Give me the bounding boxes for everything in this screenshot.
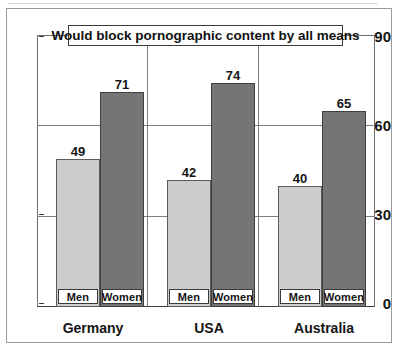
bar-value-australia-women: 65 bbox=[337, 97, 351, 110]
bar-value-germany-women: 71 bbox=[115, 78, 129, 91]
series-tag-usa-men: Men bbox=[169, 289, 209, 304]
chart-screenshot: 90 60 30 0 Germany USA Australia 49 Men … bbox=[0, 0, 398, 349]
x-category-label-usa: USA bbox=[154, 321, 264, 335]
bar-germany-women[interactable]: 71 Women bbox=[100, 92, 144, 307]
group-separator-2 bbox=[258, 35, 259, 307]
series-tag-australia-women: Women bbox=[324, 289, 364, 304]
bar-usa-men[interactable]: 42 Men bbox=[167, 180, 211, 307]
series-tag-australia-men: Men bbox=[280, 289, 320, 304]
bar-value-usa-women: 74 bbox=[226, 69, 240, 82]
x-category-label-germany: Germany bbox=[38, 321, 148, 335]
bar-usa-women[interactable]: 74 Women bbox=[211, 83, 255, 307]
scan-artifact-strip bbox=[0, 0, 398, 7]
bar-germany-men[interactable]: 49 Men bbox=[56, 159, 100, 307]
chart-title: Would block pornographic content by all … bbox=[68, 25, 343, 46]
x-category-label-australia: Australia bbox=[265, 321, 383, 335]
group-separator-1 bbox=[147, 35, 148, 307]
bar-australia-women[interactable]: 65 Women bbox=[322, 111, 366, 307]
bar-australia-men[interactable]: 40 Men bbox=[278, 186, 322, 307]
bar-value-germany-men: 49 bbox=[71, 145, 85, 158]
series-tag-germany-women: Women bbox=[102, 289, 142, 304]
bar-value-usa-men: 42 bbox=[182, 166, 196, 179]
series-tag-usa-women: Women bbox=[213, 289, 253, 304]
plot-area: 49 Men 71 Women 42 Men 74 Women 40 Men 6… bbox=[37, 35, 375, 307]
bar-value-australia-men: 40 bbox=[293, 172, 307, 185]
series-tag-germany-men: Men bbox=[58, 289, 98, 304]
